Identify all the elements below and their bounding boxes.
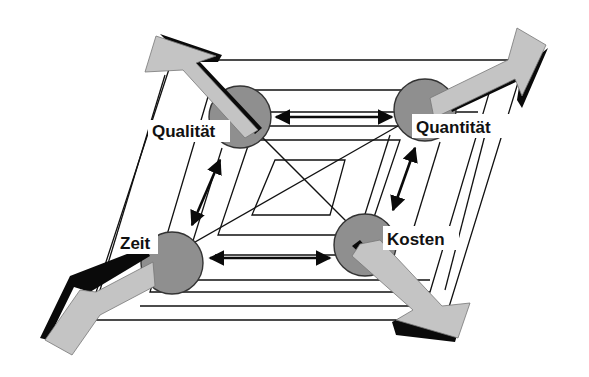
label-kosten: Kosten <box>383 226 459 250</box>
rib <box>445 135 485 290</box>
arrow-quantitaet <box>430 28 548 118</box>
arrow-zeit <box>40 247 155 355</box>
label-zeit: Zeit <box>118 232 158 254</box>
label-zeit-text: Zeit <box>120 234 151 253</box>
label-quantitaet-text: Quantität <box>416 118 491 137</box>
label-qualitaet-text: Qualität <box>152 122 216 141</box>
label-qualitaet: Qualität <box>148 120 230 142</box>
magic-quadrilateral-diagram: Qualität Quantität Zeit Kosten <box>0 0 589 377</box>
double-arrow-qualitaet-zeit <box>192 160 220 225</box>
label-quantitaet: Quantität <box>412 114 510 138</box>
double-arrow-quantitaet-kosten <box>393 148 415 210</box>
arrow-kosten <box>352 240 470 342</box>
label-kosten-text: Kosten <box>387 230 445 249</box>
rib <box>410 142 440 240</box>
